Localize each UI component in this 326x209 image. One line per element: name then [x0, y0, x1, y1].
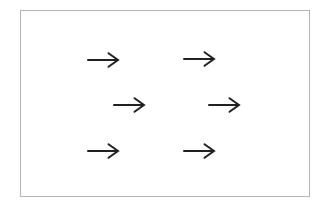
right-arrow-5 — [86, 141, 120, 161]
right-arrow-2 — [182, 49, 216, 69]
right-arrow-1 — [86, 50, 120, 70]
figure-canvas — [0, 0, 326, 209]
right-arrow-6 — [182, 141, 216, 161]
diagram-frame — [20, 10, 310, 197]
right-arrow-3 — [112, 95, 146, 115]
right-arrow-4 — [207, 95, 241, 115]
